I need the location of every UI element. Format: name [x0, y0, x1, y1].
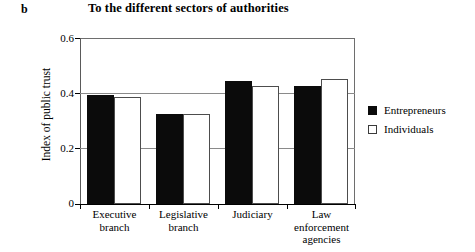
legend-item-entrepreneurs: Entrepreneurs — [368, 104, 446, 117]
x-category-label-legislative-branch: Legislativebranch — [149, 208, 218, 233]
legend-swatch-white-icon — [368, 125, 377, 134]
legend-label-individuals: Individuals — [384, 123, 434, 136]
bar-entrepreneurs-judiciary — [225, 81, 252, 204]
x-category-label-judiciary: Judiciary — [218, 208, 287, 221]
y-tick-label-0.2: 0.2 — [38, 143, 74, 154]
legend-label-entrepreneurs: Entrepreneurs — [384, 104, 446, 117]
x-category-label-law-enforcement-agencies: Lawenforcementagencies — [287, 208, 356, 246]
bars-layer — [80, 38, 356, 204]
y-tick-label-0.6: 0.6 — [38, 33, 74, 44]
bar-individuals-legislative-branch — [183, 114, 210, 204]
legend-swatch-black-icon — [368, 106, 377, 115]
y-axis-title: Index of public trust — [40, 30, 53, 200]
bar-individuals-executive-branch — [114, 97, 141, 204]
figure-panel-b: b To the different sectors of authoritie… — [0, 0, 475, 252]
legend: Entrepreneurs Individuals — [368, 104, 446, 142]
panel-label: b — [21, 2, 28, 16]
y-tick-label-0.4: 0.4 — [38, 88, 74, 99]
x-category-label-executive-branch: Executivebranch — [80, 208, 149, 233]
bar-entrepreneurs-legislative-branch — [156, 114, 183, 204]
bar-entrepreneurs-executive-branch — [87, 95, 114, 204]
y-tick-label-0: 0 — [38, 198, 74, 209]
bar-entrepreneurs-law-enforcement-agencies — [294, 86, 321, 204]
bar-individuals-law-enforcement-agencies — [321, 79, 348, 204]
chart-title: To the different sectors of authorities — [88, 1, 289, 16]
bar-individuals-judiciary — [252, 86, 279, 204]
legend-item-individuals: Individuals — [368, 123, 446, 136]
